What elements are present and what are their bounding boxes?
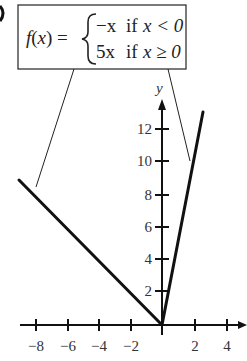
svg-text:4: 4 [145,251,153,267]
piecewise-graph: f(x) = −x if x < 0 5x if x ≥ 0 y −8 −6 −… [0,0,247,361]
x-tick-labels: −8 −6 −4 −2 2 4 [28,338,231,354]
svg-text:2: 2 [191,338,199,354]
formula-case-1: −x [96,15,117,36]
svg-text:−4: −4 [91,338,107,354]
formula-case-1-condition: x < 0 [142,15,184,36]
leader-line-left [36,69,74,187]
formula-case-2: 5x [96,41,116,62]
series-5x-line [162,112,203,325]
svg-text:8: 8 [145,187,153,203]
svg-text:4: 4 [223,338,231,354]
series-neg-x-line [19,180,162,325]
formula-case-2-condition: x ≥ 0 [142,41,181,62]
svg-text:10: 10 [137,153,152,169]
formula-lhs: f(x) = [26,27,68,49]
formula-case-1-cond: if [126,15,138,36]
leader-line-right [168,69,190,161]
svg-text:2: 2 [145,283,153,299]
formula-case-2-cond: if [126,41,138,62]
svg-text:−6: −6 [60,338,76,354]
svg-text:12: 12 [137,121,152,137]
y-axis-arrow-icon [158,99,166,110]
y-tick-labels: 2 4 6 8 10 12 [137,121,153,299]
x-axis-arrow-icon [238,321,247,329]
partial-label-glyph [0,6,3,21]
y-axis-label: y [154,80,163,96]
svg-text:−8: −8 [28,338,44,354]
svg-text:−2: −2 [123,338,139,354]
svg-text:6: 6 [145,219,153,235]
